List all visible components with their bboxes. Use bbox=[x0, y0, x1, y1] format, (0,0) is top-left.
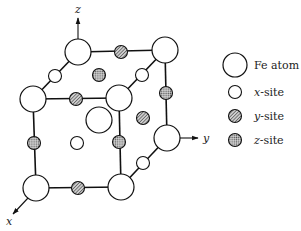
legend-label-z: z-site bbox=[253, 134, 284, 147]
z-site bbox=[93, 69, 106, 82]
fe-atom bbox=[20, 86, 46, 112]
x-site bbox=[49, 70, 62, 83]
z-axis-label: z bbox=[74, 3, 81, 16]
legend-label-y: y-site bbox=[253, 110, 284, 123]
fe-atoms bbox=[20, 37, 180, 201]
legend-label-fe: Fe atom bbox=[254, 59, 300, 72]
y-site bbox=[70, 93, 83, 106]
y-site-symbol-icon bbox=[229, 110, 242, 123]
fe-atom-symbol-icon bbox=[223, 53, 247, 77]
legend-item-z: z-site bbox=[229, 134, 284, 148]
fe-atom bbox=[65, 39, 91, 65]
legend: Fe atom x-site y-site z-site bbox=[223, 53, 300, 147]
crystal-structure-diagram: z y x bbox=[0, 0, 301, 231]
fe-atom bbox=[106, 85, 132, 111]
x-axis-label: x bbox=[6, 215, 13, 228]
z-site bbox=[113, 136, 126, 149]
fe-atom bbox=[23, 175, 49, 201]
legend-item-y: y-site bbox=[229, 110, 285, 124]
y-axis-label: y bbox=[202, 132, 210, 145]
x-site-symbol-icon bbox=[229, 86, 242, 99]
fe-atom bbox=[108, 174, 134, 200]
legend-item-fe: Fe atom bbox=[223, 53, 300, 77]
fe-atom bbox=[154, 125, 180, 151]
x-site bbox=[71, 137, 84, 150]
z-site bbox=[160, 87, 173, 100]
legend-label-x: x-site bbox=[254, 86, 284, 99]
fe-atom-center bbox=[86, 107, 112, 133]
z-site-symbol-icon bbox=[229, 134, 242, 147]
x-site bbox=[136, 69, 149, 82]
x-site bbox=[137, 157, 150, 170]
legend-item-x: x-site bbox=[229, 86, 285, 100]
fe-atom bbox=[152, 37, 178, 63]
y-site bbox=[115, 46, 128, 59]
y-site bbox=[72, 182, 85, 195]
x-axis-arrow bbox=[13, 198, 28, 214]
z-site bbox=[28, 137, 41, 150]
y-site bbox=[137, 112, 150, 125]
